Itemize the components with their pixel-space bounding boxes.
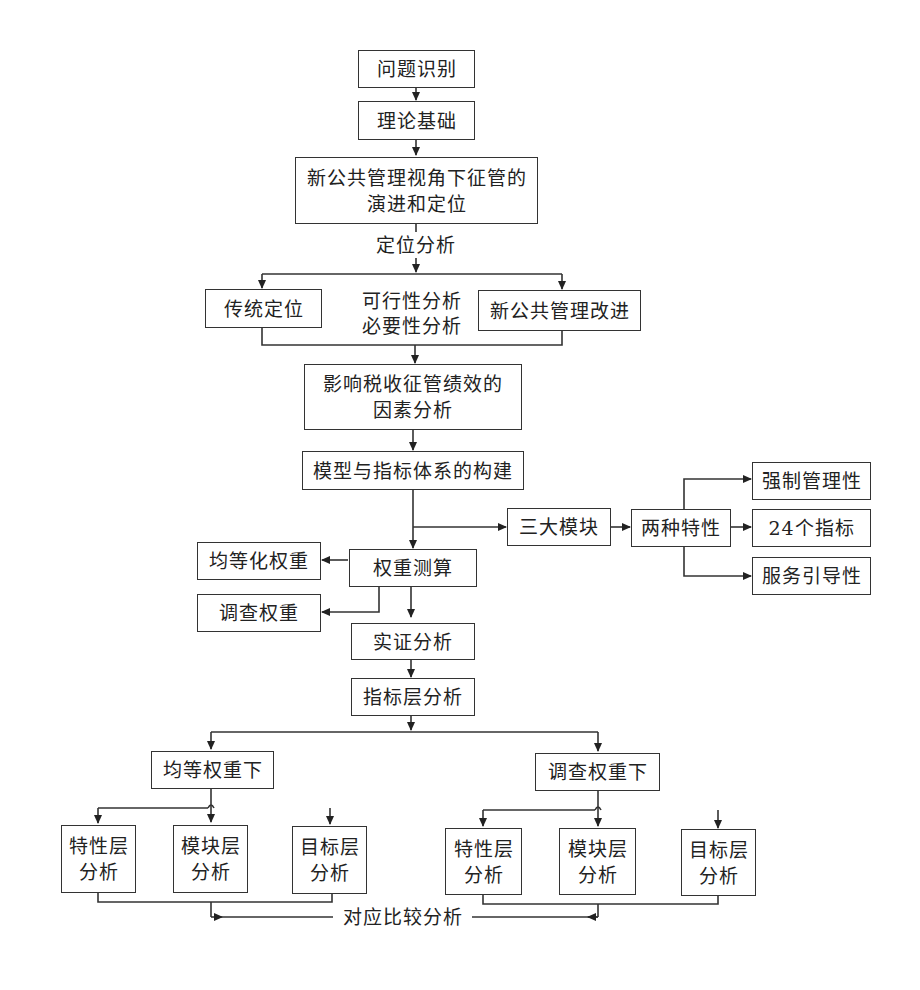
node-label-line2: 因素分析	[373, 397, 453, 423]
node-label-line1: 模块层	[568, 836, 628, 862]
label-comparison-analysis: 对应比较分析	[336, 904, 470, 930]
node-label-line1: 目标层	[689, 837, 749, 863]
node-problem-identification: 问题识别	[358, 50, 475, 88]
node-label-line2: 分析	[699, 863, 739, 889]
node-coercive-management: 强制管理性	[752, 462, 871, 500]
node-label: 调查权重下	[548, 759, 648, 785]
node-label: 实证分析	[373, 629, 453, 655]
node-two-traits: 两种特性	[631, 509, 731, 547]
node-label-line1: 模块层	[181, 833, 241, 859]
node-24-indicators: 24个指标	[752, 509, 871, 547]
node-label: 传统定位	[224, 296, 304, 322]
node-factor-analysis: 影响税收征管绩效的 因素分析	[304, 364, 522, 430]
node-label-line1: 特性层	[454, 836, 514, 862]
node-label-line2: 分析	[310, 860, 350, 886]
node-label: 理论基础	[377, 108, 457, 134]
node-label-line2: 演进和定位	[367, 191, 467, 217]
node-survey-goal-layer: 目标层 分析	[681, 829, 756, 896]
label-feasibility: 可行性分析	[352, 288, 472, 314]
node-label-line1: 特性层	[69, 833, 129, 859]
node-equal-weight: 均等化权重	[197, 542, 321, 580]
node-survey-module-layer: 模块层 分析	[559, 828, 636, 895]
node-traditional-positioning: 传统定位	[205, 289, 322, 328]
node-label-line2: 分析	[79, 859, 119, 885]
node-service-guidance: 服务引导性	[752, 557, 871, 595]
node-label: 模型与指标体系的构建	[313, 458, 513, 484]
node-label: 调查权重	[219, 600, 299, 626]
node-label: 服务引导性	[762, 563, 862, 589]
node-label: 三大模块	[519, 514, 599, 540]
node-label: 问题识别	[377, 56, 457, 82]
node-survey-weight: 调查权重	[197, 594, 321, 632]
node-survey-trait-layer: 特性层 分析	[445, 828, 522, 895]
label-necessity: 必要性分析	[352, 313, 472, 339]
node-theory-basis: 理论基础	[358, 101, 475, 140]
node-label-line2: 分析	[191, 859, 231, 885]
node-label-line1: 目标层	[300, 834, 360, 860]
node-label: 新公共管理改进	[490, 298, 630, 324]
node-three-modules: 三大模块	[507, 508, 611, 546]
node-label: 权重测算	[373, 555, 453, 581]
node-label: 强制管理性	[762, 468, 862, 494]
node-model-construction: 模型与指标体系的构建	[302, 451, 524, 490]
node-label: 指标层分析	[363, 684, 463, 710]
node-label-line1: 新公共管理视角下征管的	[307, 165, 527, 191]
node-label: 均等化权重	[209, 548, 309, 574]
node-equal-trait-layer: 特性层 分析	[61, 825, 136, 893]
node-under-equal-weight: 均等权重下	[151, 751, 274, 789]
node-indicator-layer-analysis: 指标层分析	[351, 678, 475, 716]
node-label: 两种特性	[641, 515, 721, 541]
node-weight-calculation: 权重测算	[349, 549, 477, 587]
node-under-survey-weight: 调查权重下	[535, 753, 660, 791]
edge-label-positioning-analysis: 定位分析	[366, 232, 466, 258]
node-equal-module-layer: 模块层 分析	[173, 825, 248, 893]
node-label-line2: 分析	[578, 862, 618, 888]
node-label-line1: 影响税收征管绩效的	[323, 371, 503, 397]
node-label-line2: 分析	[464, 862, 504, 888]
node-equal-goal-layer: 目标层 分析	[292, 826, 367, 894]
node-label: 24个指标	[768, 515, 854, 541]
node-npm-improvement: 新公共管理改进	[478, 290, 641, 331]
node-evolution-positioning: 新公共管理视角下征管的 演进和定位	[295, 157, 538, 224]
node-empirical-analysis: 实证分析	[351, 623, 475, 660]
node-label: 均等权重下	[163, 757, 263, 783]
